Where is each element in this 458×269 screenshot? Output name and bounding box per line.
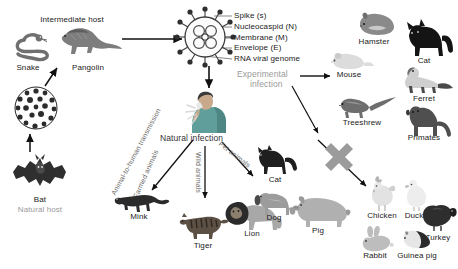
- experimental-infection-heading-line2: infection: [250, 80, 283, 89]
- coronavirus-particle-icon: [12, 84, 60, 132]
- mouse-icon: [325, 48, 375, 72]
- virus-label-spike: Spike (s): [234, 12, 266, 20]
- snake-icon: [12, 30, 60, 64]
- treeshrew-icon: [333, 92, 397, 120]
- tiger-label: Tiger: [194, 242, 212, 250]
- mouse-label: Mouse: [337, 71, 362, 79]
- virus-label-nucleocapsid: Nucleocaspid (N): [234, 23, 297, 31]
- experimental-infection-heading-line1: Experimental: [237, 70, 288, 79]
- pig-icon: [284, 192, 352, 228]
- virus-label-envelope: Envelope (E): [234, 44, 281, 52]
- cat-label-pet: Cat: [269, 176, 282, 184]
- ferret-icon: [392, 62, 454, 94]
- cat-icon-experimental: [396, 18, 454, 58]
- mink-icon: [112, 188, 172, 214]
- lion-label: Lion: [244, 230, 260, 238]
- coughing-person-icon: [186, 88, 236, 134]
- bat-icon: [10, 152, 70, 196]
- virus-label-rna-genome: RNA viral genome: [234, 55, 300, 63]
- guinea-pig-icon: [394, 226, 436, 252]
- intermediate-host-heading: Intermediate host: [40, 16, 104, 24]
- treeshrew-label: Treeshrew: [343, 119, 381, 127]
- snake-label: Snake: [16, 64, 39, 72]
- hamster-icon: [350, 10, 398, 38]
- coronavirus-icon: [174, 6, 236, 68]
- bat-label: Bat: [34, 196, 46, 204]
- mink-label: Mink: [130, 213, 147, 221]
- guinea-pig-label: Guinea pig: [397, 252, 437, 260]
- cat-icon: [250, 144, 300, 176]
- virus-label-membrane: Membrane (M): [234, 34, 288, 42]
- rabbit-label: Rabbit: [363, 252, 387, 260]
- pangolin-icon: [55, 25, 123, 58]
- route-wild-animals-label: Wild animals: [195, 152, 202, 193]
- dog-label: Dog: [267, 214, 282, 222]
- primates-label: Primates: [408, 134, 440, 142]
- pangolin-label: Pangolin: [72, 64, 104, 72]
- natural-infection-heading: Natural infection: [160, 134, 223, 143]
- chicken-icon: [366, 174, 398, 212]
- natural-host-heading: Natural host: [18, 206, 62, 214]
- hamster-label: Hamster: [359, 38, 390, 46]
- cross-mark-icon: [322, 140, 356, 174]
- chicken-label: Chicken: [367, 212, 397, 220]
- rabbit-icon: [356, 224, 396, 254]
- pig-label: Pig: [312, 227, 324, 235]
- diagram-canvas: Intermediate host Snake Pangolin: [0, 0, 458, 269]
